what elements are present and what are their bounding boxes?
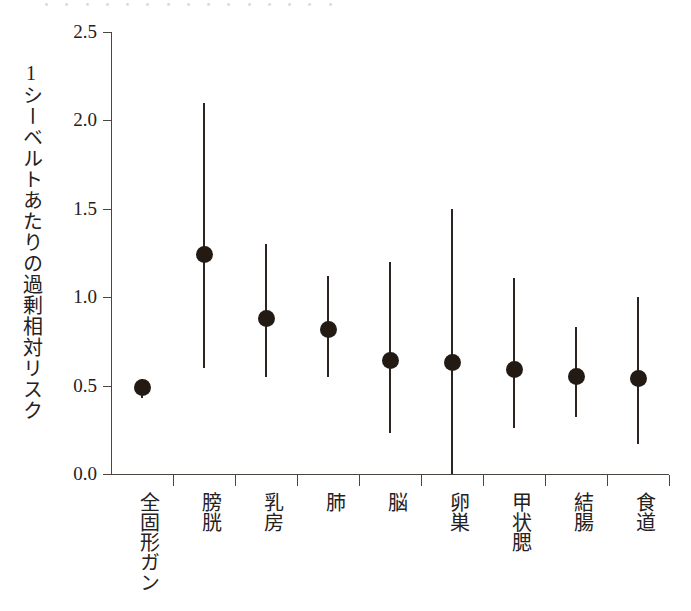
data-points-layer: [0, 0, 691, 611]
error-bar: [513, 278, 515, 428]
error-bar: [451, 209, 453, 474]
data-point-marker: [196, 246, 213, 263]
data-point-marker: [258, 310, 275, 327]
data-point-marker: [568, 368, 585, 385]
data-point-marker: [444, 354, 461, 371]
error-bar: [203, 103, 205, 368]
data-point-marker: [630, 370, 647, 387]
data-point-marker: [506, 361, 523, 378]
data-point-marker: [134, 379, 151, 396]
excess-relative-risk-chart: ・ ・ ・ ・ ・ ・ ・ ・ ・ ・ ・ ・ ・ ・ ・ 1シーベルトあたりの…: [0, 0, 691, 611]
data-point-marker: [320, 321, 337, 338]
error-bar: [389, 262, 391, 433]
data-point-marker: [382, 352, 399, 369]
